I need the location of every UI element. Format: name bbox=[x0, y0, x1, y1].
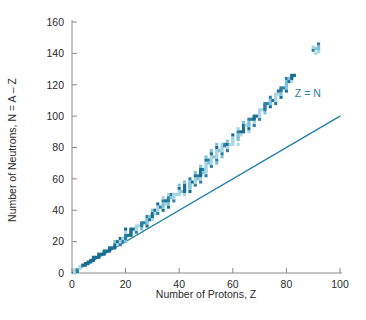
data-point bbox=[196, 174, 199, 177]
data-point bbox=[239, 133, 242, 136]
data-point bbox=[188, 190, 191, 193]
data-point bbox=[170, 193, 173, 196]
data-point bbox=[221, 143, 224, 146]
data-point bbox=[154, 209, 157, 212]
data-point bbox=[218, 149, 221, 152]
data-point bbox=[199, 165, 202, 168]
data-point bbox=[207, 159, 210, 162]
y-tick-label: 80 bbox=[52, 141, 64, 153]
data-point bbox=[194, 171, 197, 174]
y-tick-label: 60 bbox=[52, 173, 64, 185]
data-point bbox=[253, 121, 256, 124]
data-point bbox=[210, 155, 213, 158]
data-point bbox=[215, 146, 218, 149]
data-point bbox=[162, 202, 165, 205]
data-point bbox=[242, 124, 245, 127]
data-point bbox=[156, 206, 159, 209]
data-point bbox=[317, 46, 320, 49]
data-point bbox=[172, 199, 175, 202]
y-tick-label: 40 bbox=[52, 204, 64, 216]
data-point bbox=[183, 184, 186, 187]
data-point bbox=[191, 180, 194, 183]
data-point bbox=[188, 177, 191, 180]
data-point bbox=[223, 143, 226, 146]
data-point bbox=[100, 253, 103, 256]
data-point bbox=[226, 143, 229, 146]
data-point bbox=[164, 202, 167, 205]
data-point bbox=[269, 96, 272, 99]
data-point bbox=[266, 102, 269, 105]
data-point bbox=[103, 249, 106, 252]
data-point bbox=[132, 228, 135, 231]
x-tick-label: 100 bbox=[331, 278, 349, 290]
data-point bbox=[196, 177, 199, 180]
data-point bbox=[143, 221, 146, 224]
data-point bbox=[226, 149, 229, 152]
data-point bbox=[282, 86, 285, 89]
data-point bbox=[124, 240, 127, 243]
data-point bbox=[285, 77, 288, 80]
data-point bbox=[116, 243, 119, 246]
data-point bbox=[84, 262, 87, 265]
data-point bbox=[237, 133, 240, 136]
y-tick-label: 0 bbox=[58, 267, 64, 279]
data-point bbox=[314, 47, 317, 50]
data-point bbox=[113, 243, 116, 246]
data-point bbox=[202, 168, 205, 171]
data-point bbox=[78, 265, 81, 268]
data-point bbox=[199, 168, 202, 171]
data-point bbox=[121, 240, 124, 243]
data-point bbox=[175, 193, 178, 196]
data-point bbox=[317, 42, 320, 45]
data-point bbox=[247, 130, 250, 133]
data-point bbox=[269, 105, 272, 108]
data-point bbox=[255, 115, 258, 118]
data-point bbox=[156, 212, 159, 215]
data-point bbox=[263, 102, 266, 105]
data-point bbox=[237, 127, 240, 130]
data-point bbox=[116, 240, 119, 243]
data-point bbox=[212, 155, 215, 158]
data-point bbox=[226, 140, 229, 143]
data-point bbox=[167, 196, 170, 199]
data-point bbox=[124, 228, 127, 231]
data-point bbox=[183, 193, 186, 196]
data-point bbox=[148, 218, 151, 221]
chart-container: 020406080100 020406080100120140160 Z = N… bbox=[0, 0, 366, 320]
data-point bbox=[317, 50, 320, 53]
annotation-z-equals-n: Z = N bbox=[295, 87, 321, 99]
data-point bbox=[226, 146, 229, 149]
data-point bbox=[239, 130, 242, 133]
data-point bbox=[92, 256, 95, 259]
data-point bbox=[290, 80, 293, 83]
data-point bbox=[204, 162, 207, 165]
data-point bbox=[124, 231, 127, 234]
data-point bbox=[237, 130, 240, 133]
data-point bbox=[221, 152, 224, 155]
data-point bbox=[137, 224, 140, 227]
data-point bbox=[151, 212, 154, 215]
data-point bbox=[247, 127, 250, 130]
data-point bbox=[215, 149, 218, 152]
data-point bbox=[258, 118, 261, 121]
data-point bbox=[81, 264, 84, 267]
data-point bbox=[210, 152, 213, 155]
data-point bbox=[87, 260, 90, 263]
data-point bbox=[250, 118, 253, 121]
data-point bbox=[121, 237, 124, 240]
data-point bbox=[288, 80, 291, 83]
data-point bbox=[285, 80, 288, 83]
data-point bbox=[204, 155, 207, 158]
data-point bbox=[210, 165, 213, 168]
data-point bbox=[261, 108, 264, 111]
data-point bbox=[73, 268, 76, 271]
data-point bbox=[269, 99, 272, 102]
data-point bbox=[172, 193, 175, 196]
data-point bbox=[247, 121, 250, 124]
y-tick-label: 140 bbox=[46, 47, 64, 59]
x-axis-title: Number of Protons, Z bbox=[156, 288, 257, 300]
data-point bbox=[215, 162, 218, 165]
data-point bbox=[167, 193, 170, 196]
data-point bbox=[194, 177, 197, 180]
data-point bbox=[188, 180, 191, 183]
